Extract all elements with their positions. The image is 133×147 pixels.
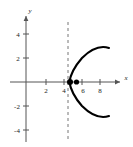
coordinate-plane-svg: 2 4 6 8 4 2 -2 -4 x y: [0, 0, 133, 147]
x-axis-label: x: [123, 74, 128, 82]
x-tick-label-2: 2: [44, 87, 48, 95]
y-axis-label: y: [27, 7, 32, 15]
graph-figure: 2 4 6 8 4 2 -2 -4 x y: [0, 0, 133, 147]
y-tick-label-4: 4: [16, 31, 20, 39]
x-tick-label-8: 8: [98, 87, 102, 95]
y-axis: [23, 16, 29, 142]
y-tick-label-minus-2: -2: [14, 103, 20, 111]
parabola-upper-branch: [69, 47, 109, 82]
x-tick-label-6: 6: [81, 87, 85, 95]
x-axis-arrow-icon: [115, 80, 120, 85]
x-tick-label-4: 4: [62, 87, 66, 95]
focus-point: [74, 79, 79, 84]
y-tick-label-2: 2: [16, 55, 20, 63]
y-tick-label-minus-4: -4: [14, 127, 20, 135]
parabola-lower-branch: [69, 82, 109, 117]
y-axis-arrow-icon: [24, 16, 29, 21]
vertex-point: [67, 79, 73, 85]
